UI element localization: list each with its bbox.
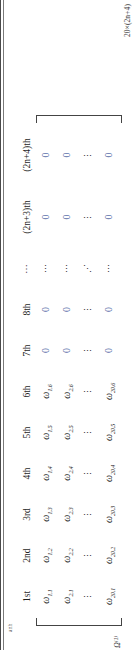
ellipsis-entry: ⋮ <box>83 510 93 519</box>
omega-symbol: ω20,4 <box>103 465 114 482</box>
matrix-cell-r1-c3: ω1,3 <box>41 494 53 535</box>
matrix-cell-r2-c2: ω2,2 <box>62 535 74 576</box>
ellipsis-entry: ⋰ <box>83 264 93 273</box>
omega-symbol: ω1,1 <box>40 589 51 603</box>
omega-subscript: 20,4 <box>110 465 116 475</box>
zero-entry: 0 <box>103 153 114 158</box>
ellipsis-entry: ⋯ <box>41 264 51 274</box>
matrix-cell-r3-c9: ⋰ <box>84 248 94 289</box>
matrix-cell-r2-c10: 0 <box>62 186 73 248</box>
zero-entry: 0 <box>103 307 114 312</box>
omega-subscript: 1,6 <box>47 384 53 391</box>
ellipsis-entry: ⋮ <box>83 151 93 160</box>
matrix-cell-r1-c5: ω1,5 <box>41 412 53 453</box>
matrix-row: ω20,1ω20,2ω20,3ω20,4ω20,5ω20,600⋯00 <box>99 124 120 617</box>
matrix-figure: anh Ω⁽¹⁾ 20×(2n+4) 1st2nd3rd4th5th6th7th… <box>0 0 138 650</box>
omega-subscript: 1,3 <box>47 507 53 514</box>
matrix-cell-r2-c9: ⋯ <box>63 248 73 289</box>
page-edge-rule-secondary <box>3 0 4 650</box>
matrix-cell-r2-c3: ω2,3 <box>62 494 74 535</box>
zero-entry: 0 <box>61 307 72 312</box>
omega-subscript: 2,6 <box>68 384 74 391</box>
matrix-cell-r3-c10: ⋮ <box>84 186 94 248</box>
column-header-6: 6th <box>23 371 33 412</box>
omega-subscript: 2,2 <box>68 548 74 555</box>
omega-symbol: ω1,4 <box>40 466 51 480</box>
matrix-cell-r3-c1: ⋮ <box>84 576 94 617</box>
omega-symbol: ω2,1 <box>61 589 72 603</box>
column-header-4: 4th <box>23 453 33 494</box>
omega-symbol: ω2,6 <box>61 384 72 398</box>
matrix-cell-r4-c6: ω20,6 <box>104 371 116 412</box>
zero-entry: 0 <box>40 348 51 353</box>
column-header-row: 1st2nd3rd4th5th6th7th8th⋯(2n+3)th(2n+4)t… <box>20 124 36 617</box>
rotated-figure-canvas: anh Ω⁽¹⁾ 20×(2n+4) 1st2nd3rd4th5th6th7th… <box>0 0 138 650</box>
matrix-cell-r2-c7: 0 <box>62 330 73 371</box>
matrix-cell-r4-c5: ω20,5 <box>104 412 116 453</box>
omega-subscript: 2,5 <box>68 425 74 432</box>
omega-subscript: 1,4 <box>47 466 53 473</box>
column-header-5: 5th <box>23 412 33 453</box>
matrix-cell-r3-c6: ⋮ <box>84 371 94 412</box>
ellipsis-entry: ⋮ <box>83 469 93 478</box>
matrix-row: ω2,1ω2,2ω2,3ω2,4ω2,5ω2,600⋯00 <box>57 124 78 617</box>
matrix-cell-r1-c10: 0 <box>41 186 52 248</box>
column-header-1: 1st <box>23 576 33 617</box>
matrix-cell-r1-c1: ω1,1 <box>41 576 53 617</box>
matrix-cell-r4-c2: ω20,2 <box>104 535 116 576</box>
matrix-cell-r3-c3: ⋮ <box>84 494 94 535</box>
matrix-cell-r4-c4: ω20,4 <box>104 453 116 494</box>
omega-symbol: ω1,3 <box>40 507 51 521</box>
omega-symbol: ω2,3 <box>61 507 72 521</box>
matrix-cell-r2-c6: ω2,6 <box>62 371 74 412</box>
page-edge-rule <box>0 0 1 650</box>
zero-entry: 0 <box>103 215 114 220</box>
matrix-cell-r4-c7: 0 <box>104 330 115 371</box>
margin-note: anh <box>7 623 13 632</box>
omega-symbol: ω20,6 <box>103 383 114 400</box>
matrix-cell-r1-c6: ω1,6 <box>41 371 53 412</box>
ellipsis-entry: ⋮ <box>83 305 93 314</box>
ellipsis-entry: ⋮ <box>83 551 93 560</box>
bracket-left <box>36 618 122 626</box>
matrix-cell-r3-c11: ⋮ <box>84 124 94 186</box>
column-header-9: ⋯ <box>23 248 33 289</box>
matrix-cell-r1-c11: 0 <box>41 124 52 186</box>
matrix-rows: ω1,1ω1,2ω1,3ω1,4ω1,5ω1,600⋯00ω2,1ω2,2ω2,… <box>36 124 120 617</box>
omega-symbol: ω20,1 <box>103 588 114 605</box>
matrix-cell-r4-c10: 0 <box>104 186 115 248</box>
ellipsis-entry: ⋮ <box>83 346 93 355</box>
matrix-body: 1st2nd3rd4th5th6th7th8th⋯(2n+3)th(2n+4)t… <box>20 115 124 626</box>
omega-symbol: ω1,5 <box>40 425 51 439</box>
omega-subscript: 2,1 <box>68 589 74 596</box>
column-header-3: 3rd <box>23 494 33 535</box>
column-header-10: (2n+3)th <box>23 186 33 248</box>
omega-symbol: ω20,5 <box>103 424 114 441</box>
zero-entry: 0 <box>61 348 72 353</box>
matrix-row: ω1,1ω1,2ω1,3ω1,4ω1,5ω1,600⋯00 <box>36 124 57 617</box>
column-header-7: 7th <box>23 330 33 371</box>
matrix-cell-r2-c5: ω2,5 <box>62 412 74 453</box>
omega-symbol: ω2,2 <box>61 548 72 562</box>
omega-subscript: 20,1 <box>110 588 116 598</box>
matrix-cell-r3-c4: ⋮ <box>84 453 94 494</box>
ellipsis-entry: ⋮ <box>83 428 93 437</box>
column-header-2: 2nd <box>23 535 33 576</box>
matrix-cell-r4-c3: ω20,3 <box>104 494 116 535</box>
ellipsis-entry: ⋯ <box>62 264 72 274</box>
omega-subscript: 1,1 <box>47 589 53 596</box>
matrix-cell-r2-c11: 0 <box>62 124 73 186</box>
omega-subscript: 20,6 <box>110 383 116 393</box>
zero-entry: 0 <box>61 153 72 158</box>
omega-subscript: 1,2 <box>47 548 53 555</box>
matrix-cell-r2-c8: 0 <box>62 289 73 330</box>
omega-symbol: ω2,4 <box>61 466 72 480</box>
matrix-cell-r4-c1: ω20,1 <box>104 576 116 617</box>
matrix-cell-r3-c5: ⋮ <box>84 412 94 453</box>
matrix-cell-r1-c9: ⋯ <box>42 248 52 289</box>
matrix-cell-r4-c11: 0 <box>104 124 115 186</box>
omega-symbol: ω2,5 <box>61 425 72 439</box>
omega-symbol: ω20,2 <box>103 547 114 564</box>
matrix-cell-r1-c4: ω1,4 <box>41 453 53 494</box>
matrix-cell-r1-c2: ω1,2 <box>41 535 53 576</box>
